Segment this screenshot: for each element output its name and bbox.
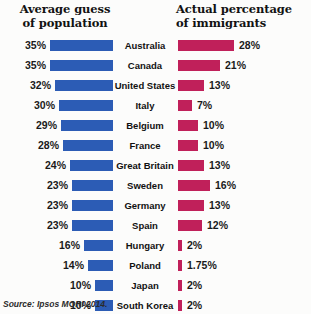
actual-cell: 2% xyxy=(178,276,311,296)
actual-bar xyxy=(178,80,204,91)
actual-cell: 13% xyxy=(178,156,311,176)
guess-bar xyxy=(50,40,113,51)
guess-cell: 24% xyxy=(0,156,113,176)
country-label: Poland xyxy=(114,259,176,273)
country-label: United States xyxy=(114,79,176,93)
chart-row: 32%United States13% xyxy=(0,76,311,96)
actual-bar xyxy=(178,40,234,51)
guess-value-label: 29% xyxy=(17,119,57,132)
actual-value-label: 13% xyxy=(209,159,230,172)
actual-cell: 7% xyxy=(178,96,311,116)
actual-cell: 2% xyxy=(178,296,311,314)
actual-bar xyxy=(178,140,198,151)
actual-value-label: 13% xyxy=(209,79,230,92)
actual-value-label: 10% xyxy=(203,119,224,132)
left-header-line1: Average guess xyxy=(20,2,111,16)
guess-value-label: 23% xyxy=(28,199,68,212)
guess-cell: 35% xyxy=(0,36,113,56)
guess-value-label: 28% xyxy=(19,139,59,152)
guess-cell: 16% xyxy=(0,236,113,256)
chart-row: 23%Germany13% xyxy=(0,196,311,216)
source-note: Source: Ipsos MORI 2014. xyxy=(3,299,107,309)
guess-value-label: 30% xyxy=(15,99,55,112)
guess-value-label: 14% xyxy=(44,259,84,272)
guess-bar xyxy=(63,140,113,151)
actual-cell: 10% xyxy=(178,116,311,136)
country-label: Japan xyxy=(114,279,176,293)
actual-value-label: 2% xyxy=(187,299,202,312)
guess-cell: 30% xyxy=(0,96,113,116)
actual-bar xyxy=(178,200,204,211)
actual-value-label: 1.75% xyxy=(187,259,217,272)
chart-row: 16%Hungary2% xyxy=(0,236,311,256)
actual-value-label: 28% xyxy=(239,39,260,52)
country-label: South Korea xyxy=(114,299,176,313)
actual-bar xyxy=(178,260,182,271)
chart-row: 10%Japan2% xyxy=(0,276,311,296)
chart-row: 28%France10% xyxy=(0,136,311,156)
country-label: Great Britain xyxy=(114,159,176,173)
guess-value-label: 10% xyxy=(51,279,91,292)
right-header-line2: of immigrants xyxy=(176,17,311,31)
guess-value-label: 35% xyxy=(6,59,46,72)
actual-value-label: 7% xyxy=(197,99,212,112)
actual-cell: 2% xyxy=(178,236,311,256)
country-label: Germany xyxy=(114,199,176,213)
chart-row: 29%Belgium10% xyxy=(0,116,311,136)
actual-bar xyxy=(178,240,182,251)
actual-bar xyxy=(178,60,220,71)
country-label: France xyxy=(114,139,176,153)
actual-value-label: 12% xyxy=(207,219,228,232)
guess-bar xyxy=(95,280,113,291)
left-column-header: Average guess of population xyxy=(2,3,128,30)
left-header-line2: of population xyxy=(2,17,128,31)
guess-value-label: 23% xyxy=(28,179,68,192)
actual-value-label: 16% xyxy=(215,179,236,192)
guess-value-label: 23% xyxy=(28,219,68,232)
right-column-header: Actual percentage of immigrants xyxy=(176,3,311,30)
actual-value-label: 10% xyxy=(203,139,224,152)
actual-value-label: 21% xyxy=(225,59,246,72)
chart-row: 14%Poland1.75% xyxy=(0,256,311,276)
actual-value-label: 2% xyxy=(187,239,202,252)
guess-cell: 29% xyxy=(0,116,113,136)
guess-value-label: 35% xyxy=(6,39,46,52)
guess-bar xyxy=(72,220,113,231)
guess-bar xyxy=(72,180,113,191)
country-label: Belgium xyxy=(114,119,176,133)
actual-cell: 10% xyxy=(178,136,311,156)
guess-bar xyxy=(88,260,113,271)
country-label: Sweden xyxy=(114,179,176,193)
country-label: Australia xyxy=(114,39,176,53)
guess-cell: 14% xyxy=(0,256,113,276)
chart-row: 23%Spain12% xyxy=(0,216,311,236)
actual-cell: 1.75% xyxy=(178,256,311,276)
guess-value-label: 16% xyxy=(40,239,80,252)
actual-value-label: 13% xyxy=(209,199,230,212)
actual-cell: 13% xyxy=(178,196,311,216)
guess-cell: 28% xyxy=(0,136,113,156)
chart-headers: Average guess of population Actual perce… xyxy=(0,3,311,35)
guess-cell: 23% xyxy=(0,196,113,216)
actual-bar xyxy=(178,280,182,291)
guess-cell: 10% xyxy=(0,276,113,296)
chart-rows: 35%Australia28%35%Canada21%32%United Sta… xyxy=(0,36,311,314)
country-label: Hungary xyxy=(114,239,176,253)
country-label: Canada xyxy=(114,59,176,73)
chart-row: 35%Canada21% xyxy=(0,56,311,76)
guess-bar xyxy=(59,100,113,111)
guess-cell: 35% xyxy=(0,56,113,76)
actual-value-label: 2% xyxy=(187,279,202,292)
guess-cell: 32% xyxy=(0,76,113,96)
actual-bar xyxy=(178,120,198,131)
guess-cell: 23% xyxy=(0,176,113,196)
actual-cell: 28% xyxy=(178,36,311,56)
guess-value-label: 24% xyxy=(26,159,66,172)
actual-cell: 16% xyxy=(178,176,311,196)
guess-cell: 23% xyxy=(0,216,113,236)
chart-row: 30%Italy7% xyxy=(0,96,311,116)
guess-bar xyxy=(84,240,113,251)
actual-bar xyxy=(178,220,202,231)
chart-row: 35%Australia28% xyxy=(0,36,311,56)
actual-cell: 12% xyxy=(178,216,311,236)
